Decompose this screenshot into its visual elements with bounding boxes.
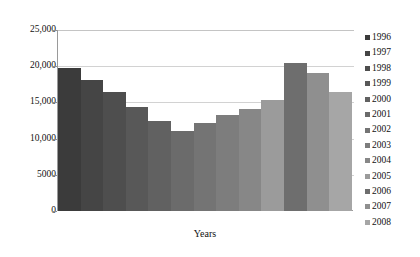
bar-1999 xyxy=(126,107,149,211)
legend-swatch-icon xyxy=(365,81,370,86)
legend-item-1999[interactable]: 1999 xyxy=(365,76,420,91)
y-axis-tick-label: 0 xyxy=(0,206,56,216)
legend-swatch-icon xyxy=(365,97,370,102)
bar-2000 xyxy=(148,121,171,212)
bar-1997 xyxy=(81,80,104,211)
legend-item-1998[interactable]: 1998 xyxy=(365,61,420,76)
y-axis-tick-mark xyxy=(52,211,57,212)
legend-swatch-icon xyxy=(365,220,370,225)
legend-label: 2001 xyxy=(372,107,391,122)
legend-label: 1996 xyxy=(372,30,391,45)
bar-1996 xyxy=(58,68,81,211)
bar-2008 xyxy=(329,92,352,211)
legend-swatch-icon xyxy=(365,66,370,71)
legend-label: 1997 xyxy=(372,45,391,60)
bar-2007 xyxy=(307,73,330,211)
legend-label: 2005 xyxy=(372,169,391,184)
legend-swatch-icon xyxy=(365,189,370,194)
bar-2001 xyxy=(171,131,194,211)
legend-swatch-icon xyxy=(365,51,370,56)
legend-item-2000[interactable]: 2000 xyxy=(365,92,420,107)
legend-swatch-icon xyxy=(365,35,370,40)
bar-2002 xyxy=(194,123,217,211)
legend-label: 2006 xyxy=(372,184,391,199)
bar-series xyxy=(58,30,352,211)
bar-2004 xyxy=(239,109,262,211)
legend-item-2006[interactable]: 2006 xyxy=(365,184,420,199)
legend-item-2003[interactable]: 2003 xyxy=(365,138,420,153)
bar-2005 xyxy=(261,100,284,211)
x-axis-title: Years xyxy=(57,228,353,239)
legend-swatch-icon xyxy=(365,112,370,117)
legend-label: 2007 xyxy=(372,199,391,214)
bar-2003 xyxy=(216,115,239,211)
legend-item-2005[interactable]: 2005 xyxy=(365,169,420,184)
legend-label: 1999 xyxy=(372,76,391,91)
bar-1998 xyxy=(103,92,126,211)
legend-swatch-icon xyxy=(365,143,370,148)
legend-label: 2004 xyxy=(372,153,391,168)
y-axis-tick-label: 10,000 xyxy=(0,134,56,144)
legend-swatch-icon xyxy=(365,158,370,163)
legend-label: 2002 xyxy=(372,122,391,137)
legend-label: 1998 xyxy=(372,61,391,76)
legend-item-2004[interactable]: 2004 xyxy=(365,153,420,168)
legend-item-2002[interactable]: 2002 xyxy=(365,122,420,137)
bar-2006 xyxy=(284,63,307,211)
bar-chart: 25,00020,00015,00010,00050000 Years 1996… xyxy=(0,0,420,257)
y-axis-tick-label: 5000 xyxy=(0,170,56,180)
y-axis-tick-label: 20,000 xyxy=(0,61,56,71)
legend-swatch-icon xyxy=(365,174,370,179)
y-axis-tick-label: 25,000 xyxy=(0,25,56,35)
legend-label: 2003 xyxy=(372,138,391,153)
legend: 1996199719981999200020012002200320042005… xyxy=(365,30,420,230)
legend-label: 2000 xyxy=(372,92,391,107)
legend-item-1997[interactable]: 1997 xyxy=(365,45,420,60)
legend-item-2008[interactable]: 2008 xyxy=(365,215,420,230)
legend-swatch-icon xyxy=(365,204,370,209)
legend-item-2001[interactable]: 2001 xyxy=(365,107,420,122)
y-axis-tick-label: 15,000 xyxy=(0,97,56,107)
legend-item-2007[interactable]: 2007 xyxy=(365,199,420,214)
legend-label: 2008 xyxy=(372,215,391,230)
legend-item-1996[interactable]: 1996 xyxy=(365,30,420,45)
legend-swatch-icon xyxy=(365,128,370,133)
